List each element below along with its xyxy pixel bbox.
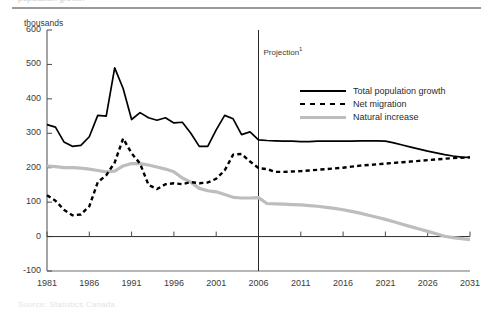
x-axis-tick-label: 1981 <box>27 279 67 288</box>
y-axis-tick-label: 100 <box>11 197 41 206</box>
legend-swatch-dashed-line <box>300 99 346 109</box>
x-axis-tick-label: 1991 <box>112 279 152 288</box>
projection-annotation: Projection1 <box>264 46 303 57</box>
legend-swatch-solid-line <box>300 86 346 96</box>
y-axis-tick-label: 200 <box>11 163 41 172</box>
legend-item-total-population-growth: Total population growth <box>300 84 446 97</box>
x-axis-tick-label: 2031 <box>450 279 489 288</box>
projection-footnote-marker: 1 <box>299 46 302 52</box>
x-axis-tick-label: 2001 <box>196 279 236 288</box>
y-axis-tick-label: 300 <box>11 128 41 137</box>
x-axis-tick-label: 1986 <box>69 279 109 288</box>
legend-item-natural-increase: Natural increase <box>300 110 446 123</box>
y-axis-tick-label: 600 <box>11 25 41 34</box>
x-axis-tick-label: 2021 <box>365 279 405 288</box>
chart-legend: Total population growth Net migration Na… <box>300 84 446 123</box>
x-axis-tick-label: 2006 <box>239 279 279 288</box>
x-axis-tick-label: 1996 <box>154 279 194 288</box>
y-axis-tick-label: 500 <box>11 59 41 68</box>
legend-label-natural-increase: Natural increase <box>353 112 419 122</box>
legend-label-net-migration: Net migration <box>353 99 407 109</box>
x-axis-tick-label: 2026 <box>408 279 448 288</box>
x-axis-tick-label: 2011 <box>281 279 321 288</box>
legend-label-total-population-growth: Total population growth <box>353 86 446 96</box>
projection-label-text: Projection <box>264 48 300 57</box>
chart-plot-area <box>0 0 489 311</box>
clipped-footer-text: Source: Statistics Canada. <box>18 300 117 309</box>
population-growth-chart-figure: population growth thousands Projection1 … <box>0 0 489 311</box>
legend-swatch-gray-line <box>300 112 346 122</box>
y-axis-tick-label: 400 <box>11 94 41 103</box>
y-axis-tick-label: -100 <box>11 266 41 275</box>
legend-item-net-migration: Net migration <box>300 97 446 110</box>
x-axis-tick-label: 2016 <box>323 279 363 288</box>
y-axis-tick-label: 0 <box>11 232 41 241</box>
